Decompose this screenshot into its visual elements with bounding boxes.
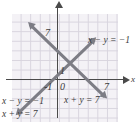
y-axis	[57, 6, 58, 118]
y-axis-arrow-icon	[55, 1, 63, 8]
tick-label-x-neg-one: -1	[44, 82, 52, 92]
equation-label-bottom-left-first: x − y = −1	[2, 97, 44, 107]
graph-screenshot: -1 0 1 7 7 x − y = −1 x + y = 7 x − y = …	[0, 0, 140, 128]
equation-label-right: x − y = −1	[88, 36, 130, 46]
tick-label-origin: 0	[60, 82, 65, 92]
x-axis-arrow-icon	[123, 76, 130, 84]
equation-label-bottom-left-second: x + y = 7	[2, 110, 38, 120]
tick-label-y-one: 1	[60, 66, 65, 76]
x-axis-label: x	[131, 75, 135, 84]
tick-label-y-seven: 7	[45, 28, 50, 38]
equation-label-middle-bottom: x + y = 7	[64, 96, 100, 106]
tick-label-x-seven: 7	[104, 82, 109, 92]
